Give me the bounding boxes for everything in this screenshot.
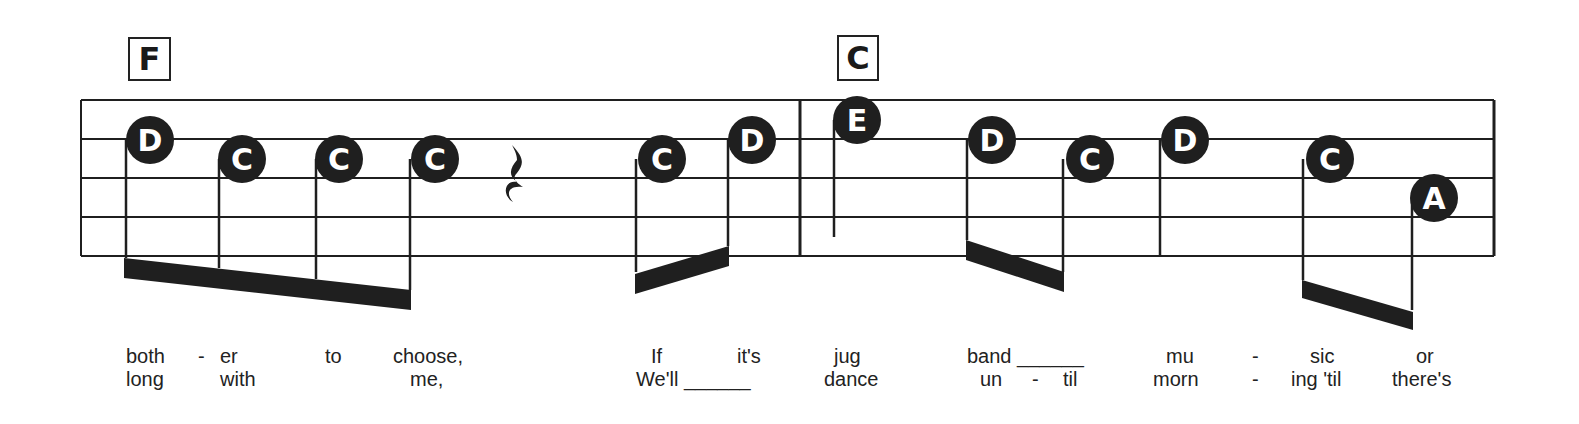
- lyric-syllable: -: [1252, 368, 1259, 390]
- lyric-syllable: dance: [824, 368, 879, 390]
- note-letter: C: [651, 142, 673, 177]
- note-d: D: [968, 116, 1016, 164]
- beam: [966, 240, 1064, 292]
- lyric-syllable: til: [1063, 368, 1077, 390]
- lyric-syllable: choose,: [393, 345, 463, 367]
- notes: DCCCCDEDCDCA: [126, 96, 1458, 222]
- chord-box-c: C: [837, 35, 879, 81]
- lyric-syllable: morn: [1153, 368, 1199, 390]
- lyric-syllable: -: [1032, 368, 1039, 390]
- lyric-syllable: long: [126, 368, 164, 390]
- beams: [124, 240, 1413, 330]
- note-c: C: [411, 135, 459, 183]
- note-d: D: [1161, 116, 1209, 164]
- lyric-syllable: jug: [834, 345, 861, 367]
- lyric-syllable: with: [220, 368, 256, 390]
- note-a: A: [1410, 174, 1458, 222]
- quarter-rest-icon: [506, 145, 523, 202]
- note-letter: D: [138, 123, 163, 158]
- note-c: C: [638, 135, 686, 183]
- lyric-syllable: -: [1252, 345, 1259, 367]
- note-letter: D: [980, 123, 1005, 158]
- lyric-syllable: We'll ______: [636, 368, 751, 390]
- lyric-syllable: both: [126, 345, 165, 367]
- lyric-syllable: or: [1416, 345, 1434, 367]
- note-letter: C: [424, 142, 446, 177]
- note-letter: D: [1173, 123, 1198, 158]
- beam: [1302, 280, 1413, 330]
- note-d: D: [126, 116, 174, 164]
- beam: [635, 246, 729, 294]
- note-letter: C: [328, 142, 350, 177]
- lyric-syllable: -: [198, 345, 205, 367]
- lyric-syllable: If: [651, 345, 662, 367]
- note-c: C: [315, 135, 363, 183]
- beam: [124, 258, 411, 310]
- note-e: E: [833, 96, 881, 144]
- lyric-syllable: there's: [1392, 368, 1451, 390]
- note-c: C: [1066, 135, 1114, 183]
- note-letter: E: [847, 103, 868, 138]
- staff: [81, 100, 1494, 256]
- note-letter: C: [1319, 142, 1341, 177]
- lyric-syllable: band ______: [967, 345, 1084, 367]
- lyric-syllable: mu: [1166, 345, 1194, 367]
- lyric-syllable: it's: [737, 345, 761, 367]
- lyric-syllable: me,: [410, 368, 443, 390]
- chord-box-f: F: [128, 37, 171, 81]
- note-letter: A: [1422, 181, 1446, 216]
- lyric-syllable: ing 'til: [1291, 368, 1342, 390]
- note-c: C: [1306, 135, 1354, 183]
- rest-shape: [506, 145, 523, 202]
- lyric-syllable: to: [325, 345, 342, 367]
- note-letter: C: [1079, 142, 1101, 177]
- note-letter: C: [231, 142, 253, 177]
- lyric-syllable: sic: [1310, 345, 1334, 367]
- lyric-syllable: un: [980, 368, 1002, 390]
- lyric-syllable: er: [220, 345, 238, 367]
- note-c: C: [218, 135, 266, 183]
- note-d: D: [728, 116, 776, 164]
- note-letter: D: [740, 123, 765, 158]
